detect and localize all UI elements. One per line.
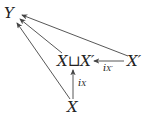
node-y: Y — [4, 6, 14, 21]
label-i-xprime-sub: X′ — [106, 65, 113, 73]
label-i-xprime: iX′ — [103, 63, 113, 73]
node-x: X — [67, 100, 78, 115]
arrow-xprime-to-y — [22, 15, 128, 56]
label-i-x: iX — [78, 78, 86, 88]
label-i-x-sub: X — [81, 80, 86, 88]
node-coproduct: X⊔X′ — [57, 54, 94, 69]
node-x-prime: X′ — [127, 54, 141, 69]
